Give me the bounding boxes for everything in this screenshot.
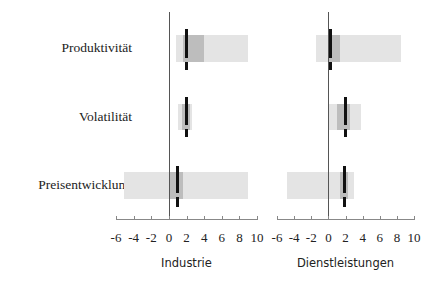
marker-lower xyxy=(344,129,347,137)
x-axis-tick-label: 10 xyxy=(402,231,426,245)
x-axis-tick xyxy=(277,216,278,220)
x-axis-tick xyxy=(328,216,329,220)
x-axis-tick xyxy=(294,216,295,220)
x-axis-tick xyxy=(380,216,381,220)
marker-lower xyxy=(329,62,332,70)
marker-lower xyxy=(343,197,346,207)
marker-upper xyxy=(329,29,332,58)
x-axis-tick xyxy=(346,216,347,220)
marker-upper xyxy=(343,166,346,193)
x-axis-tick xyxy=(397,216,398,220)
panel-title: Dienstleistungen xyxy=(276,256,416,270)
x-axis-tick xyxy=(363,216,364,220)
x-axis-tick xyxy=(414,216,415,220)
marker-upper xyxy=(344,97,347,125)
x-axis-tick xyxy=(311,216,312,220)
chart-panel-dienstleistungen: -6-4-20246810Dienstleistungen xyxy=(0,0,433,282)
